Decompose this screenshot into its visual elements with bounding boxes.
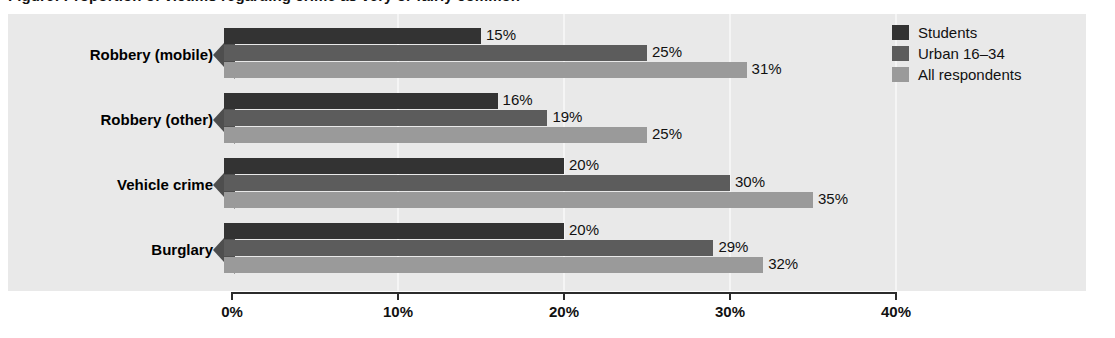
x-tick: [895, 292, 897, 300]
bar-value-label: 31%: [752, 61, 782, 77]
bar-group: Vehicle crime20%30%35%: [8, 158, 1086, 212]
x-axis: 0%10%20%30%40%: [0, 292, 1115, 338]
x-tick: [397, 292, 399, 300]
x-tick-label: 0%: [221, 303, 243, 320]
x-tick: [231, 292, 233, 300]
chart-legend: StudentsUrban 16–34All respondents: [892, 22, 1021, 85]
category-label: Burglary: [17, 242, 213, 258]
bar-value-label: 32%: [768, 256, 798, 272]
bar: [224, 223, 564, 239]
x-tick-label: 10%: [383, 303, 413, 320]
legend-swatch-icon: [892, 25, 909, 40]
bar: [224, 192, 813, 208]
category-label: Vehicle crime: [17, 177, 213, 193]
category-label-wrap: Vehicle crime: [8, 158, 213, 212]
bar: [224, 127, 647, 143]
bar-group: Robbery (other)16%19%25%: [8, 93, 1086, 147]
legend-item[interactable]: Urban 16–34: [892, 43, 1021, 64]
legend-item[interactable]: Students: [892, 22, 1021, 43]
x-tick: [729, 292, 731, 300]
category-label-wrap: Burglary: [8, 223, 213, 277]
bar: [224, 110, 547, 126]
legend-label: Students: [918, 24, 977, 41]
legend-item[interactable]: All respondents: [892, 64, 1021, 85]
bar-value-label: 15%: [486, 27, 516, 43]
bar: [224, 175, 730, 191]
bar: [224, 257, 763, 273]
category-label: Robbery (other): [17, 112, 213, 128]
bar-value-label: 16%: [503, 92, 533, 108]
x-tick-label: 40%: [881, 303, 911, 320]
bar-value-label: 25%: [652, 126, 682, 142]
legend-swatch-icon: [892, 46, 909, 61]
bar-group: Burglary20%29%32%: [8, 223, 1086, 277]
legend-label: Urban 16–34: [918, 45, 1005, 62]
figure-title: Figure: Proportion of victims regarding …: [8, 0, 520, 4]
bar: [224, 28, 481, 44]
bar: [224, 240, 713, 256]
bar: [224, 158, 564, 174]
bar-value-label: 20%: [569, 222, 599, 238]
category-label-wrap: Robbery (other): [8, 93, 213, 147]
figure-title-strip: Figure: Proportion of victims regarding …: [0, 0, 1115, 13]
x-tick-label: 30%: [715, 303, 745, 320]
bar-value-label: 30%: [735, 174, 765, 190]
bar-value-label: 20%: [569, 157, 599, 173]
category-label-wrap: Robbery (mobile): [8, 28, 213, 82]
bar: [224, 93, 498, 109]
bar-value-label: 25%: [652, 44, 682, 60]
x-tick-label: 20%: [549, 303, 579, 320]
category-label: Robbery (mobile): [17, 47, 213, 63]
legend-label: All respondents: [918, 66, 1021, 83]
bar-value-label: 29%: [718, 239, 748, 255]
x-tick: [563, 292, 565, 300]
bar-value-label: 35%: [818, 191, 848, 207]
legend-swatch-icon: [892, 67, 909, 82]
bar: [224, 45, 647, 61]
bar: [224, 62, 747, 78]
bar-value-label: 19%: [552, 109, 582, 125]
